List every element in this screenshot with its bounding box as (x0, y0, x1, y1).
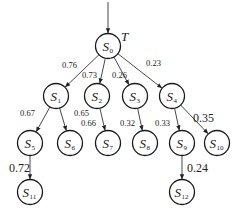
edge-weight-label: 0.65 (74, 108, 89, 118)
node-label: S (25, 136, 32, 151)
tree-label: T (121, 29, 129, 44)
node-label: S (51, 89, 58, 104)
edge-weight-label: 0.32 (120, 118, 135, 128)
edge-S3-S8 (138, 108, 143, 130)
node-label: S (177, 136, 184, 151)
node-s2: S2 (85, 84, 110, 109)
node-subscript: 3 (137, 97, 141, 105)
edge-weight-label: 0.66 (81, 118, 96, 128)
node-s10: S10 (205, 131, 230, 156)
node-s11: S11 (18, 180, 43, 205)
node-subscript: 7 (110, 144, 114, 152)
edge-weight-label: 0.76 (62, 60, 77, 70)
edge-S2-S7 (100, 108, 105, 130)
node-s12: S12 (170, 180, 195, 205)
node-label: S (23, 185, 30, 200)
node-subscript: 11 (30, 193, 37, 201)
edge-weight-label: 0.24 (187, 161, 208, 175)
edge-weight-label: 0.26 (112, 70, 127, 80)
edge-S1-S5 (36, 107, 50, 132)
node-label: S (103, 136, 110, 151)
node-label: S (130, 89, 137, 104)
node-label: S (92, 89, 99, 104)
node-subscript: 1 (58, 97, 62, 105)
node-s0: S0 (96, 34, 121, 59)
edge-weight-label: 0.33 (155, 118, 170, 128)
node-label: S (65, 136, 72, 151)
node-label: S (103, 39, 110, 54)
node-subscript: 12 (182, 193, 190, 201)
node-s8: S8 (133, 131, 158, 156)
node-subscript: 8 (147, 144, 151, 152)
node-s7: S7 (96, 131, 121, 156)
edge-weight-label: 0.72 (9, 161, 30, 175)
edge-weight-label: 0.35 (193, 111, 214, 125)
node-subscript: 5 (32, 144, 36, 152)
node-subscript: 10 (217, 144, 225, 152)
edge-weight-label: 0.67 (20, 108, 35, 118)
node-subscript: 6 (72, 144, 76, 152)
edge-weight-label: 0.73 (82, 70, 97, 80)
node-label: S (140, 136, 147, 151)
node-label: S (210, 136, 217, 151)
node-subscript: 4 (174, 97, 178, 105)
node-s5: S5 (18, 131, 43, 156)
edge-S1-S6 (60, 108, 67, 131)
tree-diagram: T 0.760.730.260.230.670.650.660.320.330.… (0, 0, 238, 218)
node-s4: S4 (160, 84, 185, 109)
node-subscript: 2 (99, 97, 103, 105)
node-s9: S9 (170, 131, 195, 156)
node-s6: S6 (58, 131, 83, 156)
edge-S0-S2 (100, 58, 106, 83)
node-label: S (167, 89, 174, 104)
node-s3: S3 (123, 84, 148, 109)
node-subscript: 0 (110, 47, 114, 55)
edge-S4-S9 (175, 108, 180, 130)
node-s1: S1 (44, 84, 69, 109)
edge-weight-label: 0.23 (146, 58, 161, 68)
node-subscript: 9 (184, 144, 188, 152)
node-label: S (175, 185, 182, 200)
